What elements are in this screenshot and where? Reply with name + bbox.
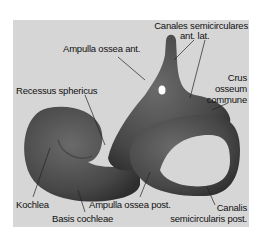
- label-recessus-sphericus: Recessus sphericus: [16, 86, 97, 96]
- label-canalis-line2: semicircularis post.: [150, 214, 247, 224]
- label-canales-semicirculares-line2: ant. lat.: [180, 31, 209, 41]
- label-ampulla-ossea-post: Ampulla ossea post.: [89, 200, 171, 210]
- label-ampulla-ossea-ant: Ampulla ossea ant.: [63, 44, 140, 54]
- label-kochlea: Kochlea: [16, 200, 49, 210]
- label-crus-line1: Crus: [195, 73, 247, 83]
- label-crus-line3: commune: [195, 95, 247, 105]
- label-crus-line2: osseum: [195, 84, 247, 94]
- label-basis-cochleae: Basis cochleae: [52, 214, 113, 224]
- label-canalis-line1: Canalis: [190, 203, 247, 213]
